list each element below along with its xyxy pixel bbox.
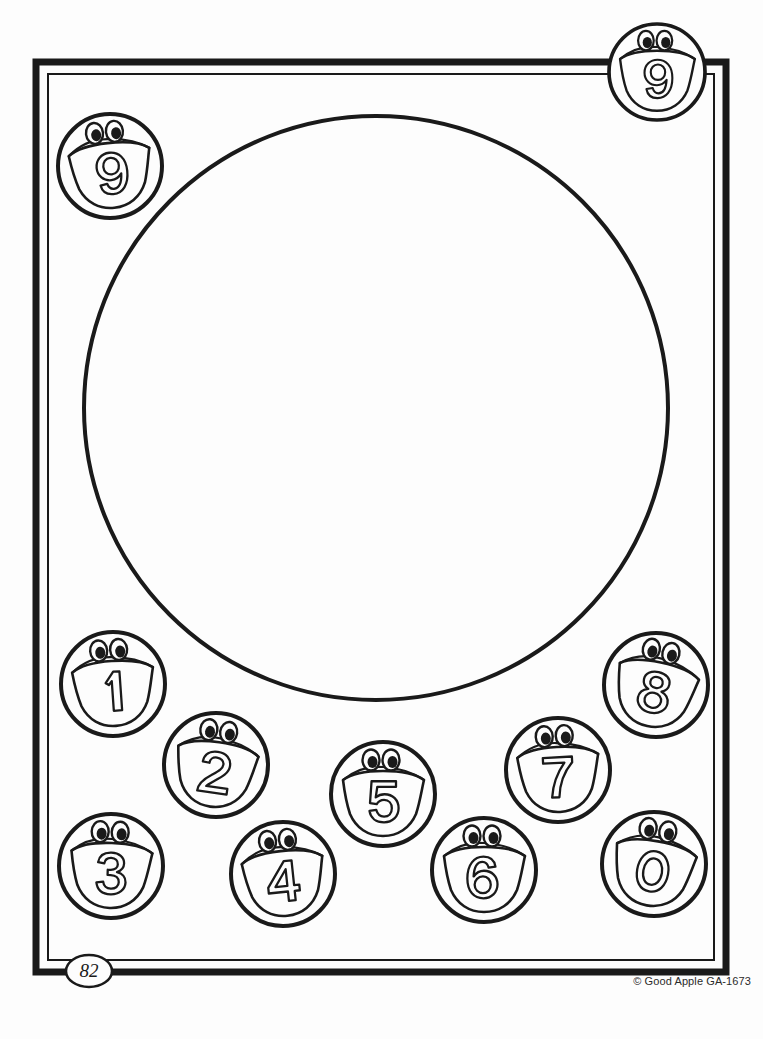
character-pupil-right <box>489 832 499 844</box>
number-character-1[interactable] <box>61 632 165 736</box>
number-character-2[interactable] <box>164 713 268 817</box>
character-pupil-left <box>368 756 378 768</box>
page-number-badge-outline <box>66 955 112 987</box>
number-character-8[interactable] <box>604 633 708 737</box>
copyright-notice: © Good Apple GA-1673 <box>633 975 751 987</box>
number-character-6[interactable] <box>432 818 536 922</box>
character-pupil-right <box>661 37 670 48</box>
number-character-4[interactable] <box>231 822 335 926</box>
worksheet-artwork <box>0 0 763 1039</box>
number-character-9[interactable] <box>609 24 705 120</box>
number-character-7[interactable] <box>506 718 610 822</box>
page-number-badge <box>66 955 112 987</box>
character-pupil-left <box>469 832 479 844</box>
worksheet-page: 82 © Good Apple GA-1673 <box>0 0 763 1039</box>
number-character-0[interactable] <box>602 812 706 916</box>
number-character-3[interactable] <box>59 814 163 918</box>
character-pupil-left <box>643 37 652 48</box>
number-character-9[interactable] <box>58 114 162 218</box>
character-pupil-right <box>388 756 398 768</box>
number-character-5[interactable] <box>331 742 435 846</box>
